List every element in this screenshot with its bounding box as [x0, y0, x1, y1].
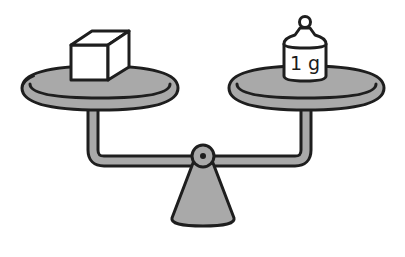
balance-scale-drawing [0, 0, 405, 257]
scale-base [172, 163, 234, 226]
weight-label: 1 g [284, 54, 326, 73]
cube-object [71, 31, 129, 80]
balance-scale-diagram: 1 g [0, 0, 405, 257]
weight-knob [300, 17, 311, 28]
